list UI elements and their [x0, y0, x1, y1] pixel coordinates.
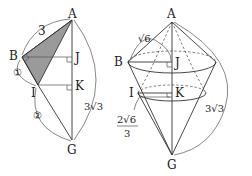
- right-angle-j-right: [167, 62, 172, 67]
- length-ik-denominator: 3: [124, 128, 130, 139]
- arc-ik-pointer: [134, 96, 140, 110]
- label-j-right: J: [173, 56, 180, 70]
- length-ag: 3√3: [84, 101, 103, 112]
- segment-ig: [38, 85, 72, 140]
- label-i-right: I: [129, 86, 134, 100]
- label-g: G: [67, 143, 77, 157]
- upper-cone-dash-left: [150, 22, 172, 71]
- right-figure: A B J I K G √6 2√6 3 3√3: [114, 7, 228, 172]
- length-ik-numerator: 2√6: [117, 114, 136, 125]
- label-j: J: [73, 51, 80, 65]
- length-ab-right: √6: [138, 33, 151, 44]
- ratio-bi: ①: [13, 67, 22, 78]
- inner-dash-right: [194, 71, 206, 93]
- inner-dash-left: [138, 71, 150, 93]
- right-angle-j: [67, 57, 72, 62]
- label-b: B: [9, 49, 18, 63]
- length-ag-right: 3√3: [205, 103, 224, 114]
- shaded-triangle-abi: [22, 20, 72, 85]
- left-figure: A B J I K G 3 ① ② 3√3: [9, 7, 103, 157]
- label-g-right: G: [167, 158, 177, 172]
- label-k-right: K: [175, 86, 185, 100]
- label-a-right: A: [166, 7, 176, 21]
- label-a: A: [67, 7, 77, 21]
- label-b-right: B: [114, 55, 123, 69]
- label-k: K: [75, 79, 85, 93]
- geometry-diagram: A B J I K G 3 ① ② 3√3: [0, 0, 252, 176]
- segment-ig-right: [138, 93, 172, 155]
- right-angle-k-right: [167, 93, 172, 97]
- length-ab: 3: [38, 24, 46, 38]
- ratio-ig: ②: [33, 110, 42, 121]
- right-angle-k: [67, 85, 72, 90]
- label-i: I: [31, 86, 36, 100]
